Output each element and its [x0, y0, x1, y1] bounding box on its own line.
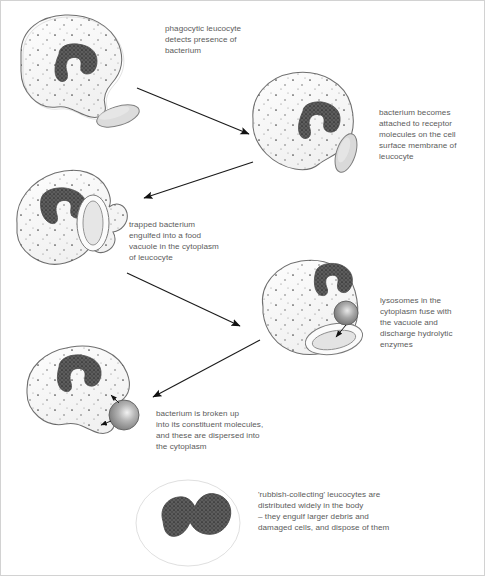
stage-4-lysosome: [334, 301, 358, 325]
caption-step-3: trapped bacterium engulfed into a food v…: [129, 219, 241, 263]
stage-1-cell: [21, 15, 124, 119]
arrow-stage1-to-stage2: [137, 88, 249, 134]
arrow-stage4-to-stage5: [153, 340, 260, 397]
arrow-stage2-to-stage3: [144, 162, 253, 198]
stage-6-nucleus: [162, 494, 231, 537]
stage-3-food-vacuole: [77, 195, 109, 251]
caption-step-1: phagocytic leucocyte detects presence of…: [165, 23, 280, 56]
stage-4-cell: [262, 260, 365, 359]
caption-step-5: bacterium is broken up into its constitu…: [156, 408, 321, 452]
stage-5-digesting-bacterium: [109, 400, 139, 430]
arrow-stage3-to-stage4: [127, 273, 240, 326]
diagram-canvas: phagocytic leucocyte detects presence of…: [0, 0, 485, 576]
caption-step-2: bacterium becomes attached to receptor m…: [379, 107, 484, 162]
stage-2-cell: [253, 72, 361, 175]
caption-step-4: lysosomes in the cytoplasm fuse with the…: [380, 295, 484, 350]
stage-5-cell: [27, 346, 139, 433]
caption-step-6: 'rubbish-collecting' leucocytes are dist…: [258, 489, 473, 533]
stage-3-cell: [17, 170, 127, 264]
